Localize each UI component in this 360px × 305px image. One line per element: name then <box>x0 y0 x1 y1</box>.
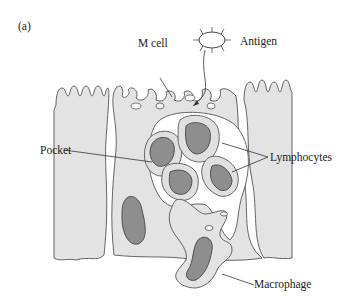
vacuole <box>131 103 141 109</box>
lymphocyte-2 <box>178 115 219 162</box>
label-lymphocytes: Lymphocytes <box>270 151 332 164</box>
label-antigen: Antigen <box>240 35 277 48</box>
label-m-cell: M cell <box>138 37 168 49</box>
left-epithelial-cell <box>54 86 109 260</box>
right-epithelial-cell <box>244 80 292 259</box>
vacuole <box>156 103 164 109</box>
label-pocket: Pocket <box>40 144 72 156</box>
panel-label: (a) <box>18 20 31 33</box>
antigen-icon <box>193 27 231 53</box>
macrophage-leader <box>222 274 254 285</box>
m-cell-leader <box>160 78 172 97</box>
m-cell-diagram: (a) M cell Antigen Pocket Lymphocytes Ma… <box>0 0 360 305</box>
label-macrophage: Macrophage <box>254 278 311 291</box>
vacuole <box>205 226 213 231</box>
vacuole <box>207 103 215 109</box>
vacuole <box>221 212 228 216</box>
vacuole <box>185 95 195 101</box>
